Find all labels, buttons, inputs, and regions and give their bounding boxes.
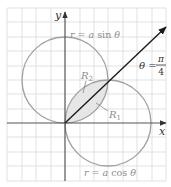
label-r-a-cos-theta: r = a cos θ xyxy=(84,167,136,178)
x-axis-label: x xyxy=(159,125,166,138)
label-r-a-sin-theta: r = a sin θ xyxy=(70,29,120,40)
y-axis-label: y xyxy=(54,9,62,22)
polar-area-diagram: y x r = a sin θ r = a cos θ θ = π 4 R2 R… xyxy=(0,0,171,187)
label-theta-pi-over-4: θ = π 4 xyxy=(139,54,166,77)
fraction-numerator: π xyxy=(157,54,165,64)
label-region-r2: R2 xyxy=(80,70,93,83)
fraction-denominator: 4 xyxy=(158,67,164,77)
svg-text:θ =: θ = xyxy=(139,60,157,71)
label-region-r1: R1 xyxy=(108,109,121,122)
